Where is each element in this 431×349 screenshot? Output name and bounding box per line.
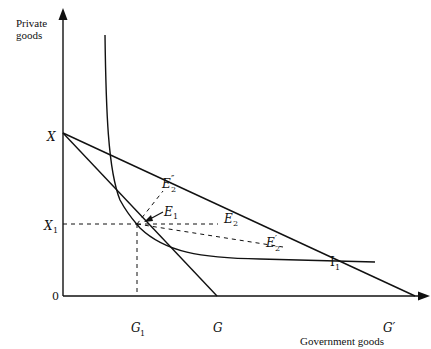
label-X: X	[46, 130, 56, 144]
label-E2-dprime-mark: ″	[171, 174, 175, 184]
label-E1: E	[163, 205, 173, 219]
label-E2: E	[223, 212, 233, 226]
label-X1: X	[43, 219, 53, 233]
label-E1-sub: 1	[173, 212, 178, 221]
label-E2-prime: E	[265, 236, 275, 250]
indifference-curve-I1	[105, 35, 375, 262]
label-I1-sub: 1	[335, 263, 340, 272]
x-axis-arrow-icon	[418, 292, 430, 301]
E1-pointer-arrowhead-icon	[144, 215, 153, 222]
diagram-canvas: Private goods Government goods 0 X X 1 G…	[0, 0, 431, 349]
label-G1-sub: 1	[140, 329, 145, 338]
label-X1-sub: 1	[53, 226, 58, 235]
label-E2-sub: 2	[233, 219, 238, 228]
label-E2-prime-sub: 2	[275, 244, 280, 253]
budget-line-XG	[63, 133, 217, 296]
budget-line-XGprime	[63, 133, 415, 296]
label-E2-dprime-sub: 2	[171, 185, 176, 194]
y-axis-label-line1: Private	[16, 17, 47, 29]
label-G: G	[213, 321, 223, 335]
label-E2-dprime: E	[161, 177, 171, 191]
y-axis-label-line2: goods	[16, 29, 42, 41]
origin-label: 0	[52, 290, 59, 303]
y-axis-arrow-icon	[59, 8, 68, 20]
x-axis-label: Government goods	[300, 335, 384, 347]
label-E2-prime-mark: ′	[275, 234, 277, 244]
label-G-prime: G′	[383, 321, 396, 335]
